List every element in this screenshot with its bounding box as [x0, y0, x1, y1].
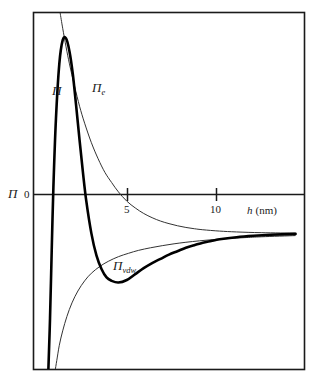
annotation-total-pressure: Π [51, 83, 63, 98]
x-tick-label-10: 10 [210, 203, 222, 215]
y-axis-label: Π [7, 186, 19, 201]
dlvo-disjoining-pressure-figure: Π 0 5 10 h(nm) Π Πe Πvdw [0, 0, 318, 385]
chart-svg: Π 0 5 10 h(nm) Π Πe Πvdw [0, 0, 318, 385]
plot-frame [34, 13, 305, 370]
x-axis-label-var: h [247, 204, 253, 216]
x-axis-label: h(nm) [247, 204, 277, 217]
x-tick-label-5: 5 [124, 203, 130, 215]
x-axis-label-unit: (nm) [256, 204, 278, 217]
y-tick-label-0: 0 [24, 188, 30, 200]
